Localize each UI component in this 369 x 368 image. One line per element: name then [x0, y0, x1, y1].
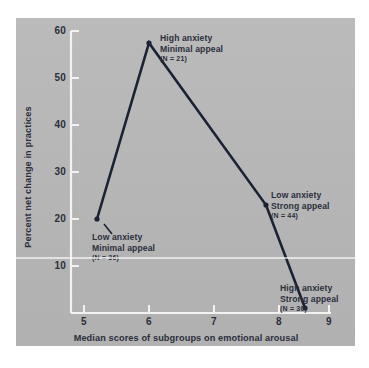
- y-tick-label-50: 50: [44, 72, 66, 83]
- y-tick-label-10: 10: [44, 260, 66, 271]
- annotation-sample-size: (N = 21): [160, 54, 223, 64]
- y-axis-title: Percent net change in practices: [23, 87, 33, 267]
- annotation-line-2: Minimal appeal: [160, 44, 223, 55]
- x-axis-title: Median scores of subgroups on emotional …: [36, 333, 336, 343]
- x-tick-label-7: 7: [204, 316, 224, 327]
- annotation-sample-size: (N = 44): [271, 211, 330, 221]
- annotation-low-anxiety-minimal-appeal: Low anxiety Minimal appeal (N = 36): [92, 232, 155, 263]
- annotation-line-1: Low anxiety: [271, 190, 330, 201]
- annotation-sample-size: (N = 30): [280, 304, 339, 314]
- y-tick-label-20: 20: [44, 213, 66, 224]
- x-tick-label-6: 6: [139, 316, 159, 327]
- annotation-line-2: Strong appeal: [280, 294, 339, 305]
- y-tick-label-60: 60: [44, 25, 66, 36]
- x-tick-label-9: 9: [319, 316, 339, 327]
- annotation-sample-size: (N = 36): [92, 253, 155, 263]
- annotation-line-2: Strong appeal: [271, 201, 330, 212]
- annotation-high-anxiety-minimal-appeal: High anxiety Minimal appeal (N = 21): [160, 33, 223, 64]
- y-tick-label-30: 30: [44, 166, 66, 177]
- x-tick-label-8: 8: [269, 316, 289, 327]
- x-tick-label-5: 5: [74, 316, 94, 327]
- annotation-line-2: Minimal appeal: [92, 243, 155, 254]
- y-tick-label-40: 40: [44, 119, 66, 130]
- annotation-line-1: High anxiety: [160, 33, 223, 44]
- annotation-high-anxiety-strong-appeal: High anxiety Strong appeal (N = 30): [280, 283, 339, 314]
- annotation-line-1: Low anxiety: [92, 232, 155, 243]
- annotation-line-1: High anxiety: [280, 283, 339, 294]
- figure-container: 60 50 40 30 20 10 5 6 7 8 9 Percent net …: [0, 0, 369, 368]
- annotation-low-anxiety-strong-appeal: Low anxiety Strong appeal (N = 44): [271, 190, 330, 221]
